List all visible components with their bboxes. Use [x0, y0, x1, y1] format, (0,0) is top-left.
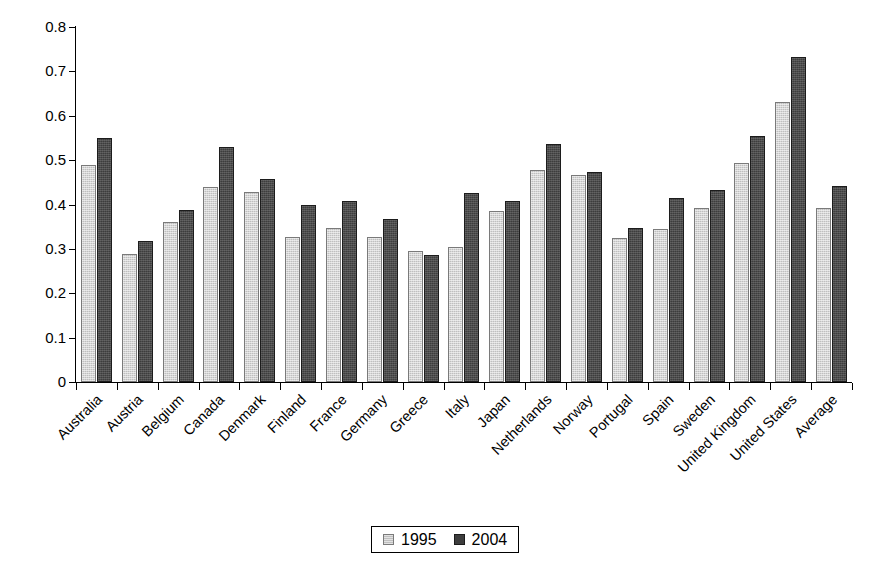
bar-2004 [424, 255, 439, 382]
legend-label-1995: 1995 [401, 532, 437, 548]
y-axis-tick-label: 0.4 [6, 197, 66, 212]
x-axis-category-label: Germany [338, 392, 391, 445]
x-axis-category-label: Canada [181, 392, 228, 439]
bar-2004 [628, 228, 643, 382]
bar-2004 [383, 219, 398, 382]
bar-group [689, 27, 730, 382]
legend-swatch-2004-icon [454, 534, 465, 545]
x-axis-tick [444, 383, 445, 390]
y-axis-tick-label: 0.2 [6, 285, 66, 300]
bar-2004 [710, 190, 725, 382]
bar-1995 [489, 211, 504, 382]
bar-1995 [775, 102, 790, 382]
bar-group [117, 27, 158, 382]
x-axis-tick [484, 383, 485, 390]
x-axis-category-label: Denmark [216, 392, 268, 444]
bar-1995 [285, 237, 300, 382]
y-axis-tick [69, 382, 76, 383]
bar-2004 [505, 201, 520, 382]
x-axis-tick [525, 383, 526, 390]
x-axis-category-label: Netherlands [489, 392, 555, 458]
bar-1995 [571, 175, 586, 382]
x-axis-category-label: Belgium [139, 392, 187, 440]
bar-group [729, 27, 770, 382]
bar-2004 [464, 193, 479, 382]
bar-group [321, 27, 362, 382]
bar-1995 [530, 170, 545, 382]
x-axis-tick [117, 383, 118, 390]
y-axis-tick-label: 0.3 [6, 241, 66, 256]
bar-group [811, 27, 852, 382]
x-axis-tick [280, 383, 281, 390]
bar-2004 [138, 241, 153, 382]
x-axis-category-label: Japan [474, 392, 513, 431]
y-axis-tick [69, 338, 76, 339]
x-axis-category-label: France [308, 392, 351, 435]
x-axis-category-label: United Kingdom [675, 392, 759, 476]
legend-item-2004: 2004 [454, 532, 508, 548]
bar-group [239, 27, 280, 382]
x-axis-tick [648, 383, 649, 390]
x-axis-tick [199, 383, 200, 390]
x-axis-category-label: Greece [387, 392, 431, 436]
bar-group [648, 27, 689, 382]
x-axis-category-label: United States [727, 392, 799, 464]
y-axis-tick [69, 160, 76, 161]
bar-1995 [816, 208, 831, 382]
bar-group [362, 27, 403, 382]
x-axis-tick [607, 383, 608, 390]
x-axis-tick [811, 383, 812, 390]
bar-1995 [203, 187, 218, 382]
x-axis-category-label: Sweden [670, 392, 718, 440]
x-axis-category-label: Norway [550, 392, 595, 437]
bar-1995 [408, 251, 423, 382]
bar-2004 [750, 136, 765, 382]
y-axis-tick-label: 0.8 [6, 19, 66, 34]
bar-group [484, 27, 525, 382]
x-axis-category-label: Finland [265, 392, 309, 436]
bar-1995 [326, 228, 341, 382]
bar-1995 [163, 222, 178, 382]
plot-area [76, 27, 852, 382]
legend-item-1995: 1995 [383, 532, 437, 548]
x-axis-tick [76, 383, 77, 390]
bar-group [770, 27, 811, 382]
x-axis-line [75, 382, 852, 383]
bar-1995 [653, 229, 668, 382]
x-axis-category-label: Average [791, 392, 840, 441]
y-axis-tick [69, 71, 76, 72]
y-axis-tick [69, 116, 76, 117]
y-axis-tick [69, 205, 76, 206]
bar-group [566, 27, 607, 382]
legend-label-2004: 2004 [472, 532, 508, 548]
y-axis-tick [69, 249, 76, 250]
bar-1995 [81, 165, 96, 382]
x-axis-tick [362, 383, 363, 390]
bar-group [525, 27, 566, 382]
bar-group [199, 27, 240, 382]
x-axis-tick [770, 383, 771, 390]
x-axis-tick [239, 383, 240, 390]
bar-2004 [832, 186, 847, 382]
legend-swatch-1995-icon [383, 534, 394, 545]
bar-group [607, 27, 648, 382]
bar-2004 [342, 201, 357, 382]
bar-2004 [587, 172, 602, 382]
bar-1995 [448, 247, 463, 382]
bar-chart: 00.10.20.30.40.50.60.70.8 AustraliaAustr… [0, 0, 872, 576]
y-axis-tick-label: 0.1 [6, 330, 66, 345]
bar-1995 [367, 237, 382, 382]
bar-1995 [244, 192, 259, 382]
legend: 1995 2004 [371, 526, 519, 553]
bar-1995 [734, 163, 749, 382]
bar-1995 [612, 238, 627, 382]
x-axis-tick [158, 383, 159, 390]
bar-2004 [669, 198, 684, 382]
bar-2004 [97, 138, 112, 382]
y-axis-tick-label: 0 [6, 374, 66, 389]
x-axis-tick [852, 383, 853, 390]
y-axis-tick-label: 0.5 [6, 152, 66, 167]
x-axis-tick [689, 383, 690, 390]
y-axis-labels: 00.10.20.30.40.50.60.70.8 [0, 0, 66, 576]
bar-2004 [546, 144, 561, 382]
